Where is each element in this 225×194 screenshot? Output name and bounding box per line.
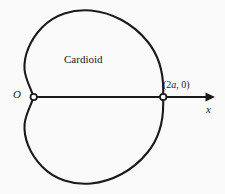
x-axis-label: x <box>206 104 211 115</box>
point-2a-marker <box>160 94 166 100</box>
cardioid-name-label: Cardioid <box>64 54 103 65</box>
cardioid-figure: O Cardioid (2a, 0) x <box>0 0 225 194</box>
point-2a-suffix: , 0) <box>176 79 189 90</box>
point-2a-label: (2a, 0) <box>163 80 190 90</box>
cardioid-drawing-canvas <box>0 0 225 194</box>
origin-label: O <box>13 89 21 100</box>
x-axis-arrowhead <box>206 93 216 102</box>
origin-cusp-marker <box>31 94 37 100</box>
